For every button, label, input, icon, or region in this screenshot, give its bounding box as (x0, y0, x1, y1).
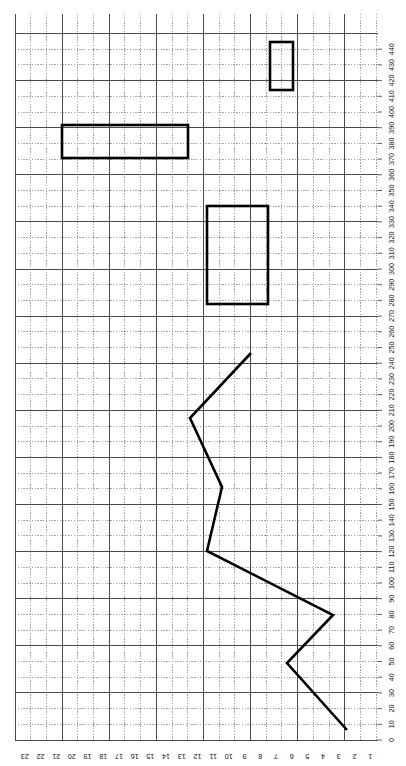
y-axis-tick-label: 110 (387, 562, 396, 573)
y-axis-tick-label: 30 (387, 689, 396, 697)
x-axis-tick-label: 3 (337, 752, 341, 761)
y-axis-tick-label: 420 (387, 75, 396, 87)
y-axis-tick-label: 170 (387, 467, 396, 479)
y-axis-tick-label: 320 (387, 232, 396, 244)
x-axis-tick-label: 2 (352, 752, 356, 761)
y-axis-tick-label: 230 (387, 373, 396, 385)
x-axis-tick-label: 5 (305, 752, 309, 761)
y-axis-tick-label: 130 (387, 530, 396, 542)
rectangle-shapes (62, 42, 293, 304)
y-axis-tick-label: 180 (387, 451, 396, 463)
x-axis-tick-label: 12 (193, 752, 201, 761)
y-axis-tick-label: 10 (387, 720, 396, 728)
y-axis-tick-label: 150 (387, 499, 396, 511)
x-axis-tick-labels: 1234567891011121314151617181920212223 (21, 752, 372, 761)
y-axis-tick-label: 430 (387, 59, 396, 71)
x-axis-tick-label: 10 (225, 752, 233, 761)
y-axis-tick-label: 20 (387, 705, 396, 713)
x-axis-tick-label: 4 (321, 752, 325, 761)
y-axis-tick-label: 60 (387, 642, 396, 650)
x-axis-tick-label: 13 (178, 752, 186, 761)
y-axis-tick-label: 390 (387, 122, 396, 134)
y-axis-tick-labels: 0102030405060708090100110120130140150160… (378, 43, 396, 742)
x-axis-tick-label: 9 (243, 752, 247, 761)
y-axis-tick-label: 260 (387, 326, 396, 338)
y-axis-tick-label: 310 (387, 247, 396, 259)
y-axis-tick-label: 90 (387, 595, 396, 603)
rect-tall-middle (207, 206, 268, 304)
y-axis-tick-label: 410 (387, 90, 396, 102)
x-axis-tick-label: 23 (21, 752, 29, 761)
x-axis-tick-label: 7 (274, 752, 278, 761)
series-line-zigzag-polyline (190, 353, 347, 730)
x-axis-tick-label: 1 (368, 752, 372, 761)
y-axis-tick-label: 140 (387, 514, 396, 526)
y-axis-tick-label: 240 (387, 357, 396, 369)
plot-canvas: 1234567891011121314151617181920212223 01… (0, 0, 406, 766)
x-axis-tick-label: 11 (209, 752, 216, 761)
grid-major-lines (15, 14, 378, 740)
x-axis-tick-label: 14 (162, 752, 170, 761)
x-axis-tick-label: 17 (115, 752, 123, 761)
y-axis-tick-label: 0 (387, 738, 396, 742)
y-axis-tick-label: 370 (387, 153, 396, 165)
y-axis-tick-label: 100 (387, 577, 396, 589)
y-axis-tick-label: 440 (387, 43, 396, 55)
x-axis-tick-label: 20 (68, 752, 76, 761)
y-axis-tick-label: 190 (387, 436, 396, 448)
x-axis-tick-label: 22 (36, 752, 44, 761)
y-axis-tick-label: 80 (387, 610, 396, 618)
grid-minor-lines (15, 14, 378, 740)
y-axis-tick-label: 50 (387, 658, 396, 666)
y-axis-tick-label: 400 (387, 106, 396, 118)
x-axis-tick-label: 18 (99, 752, 107, 761)
y-axis-tick-label: 200 (387, 420, 396, 432)
y-axis-tick-label: 160 (387, 483, 396, 495)
y-axis-tick-label: 280 (387, 294, 396, 306)
y-axis-tick-label: 340 (387, 200, 396, 212)
y-axis-tick-label: 300 (387, 263, 396, 275)
x-axis-tick-label: 19 (84, 752, 92, 761)
y-axis-tick-label: 250 (387, 342, 396, 354)
y-axis-tick-label: 70 (387, 626, 396, 634)
x-axis-tick-label: 16 (131, 752, 139, 761)
graph-paper-page: 1234567891011121314151617181920212223 01… (0, 0, 406, 766)
y-axis-tick-label: 380 (387, 137, 396, 149)
y-axis-tick-label: 290 (387, 279, 396, 291)
y-axis-tick-label: 330 (387, 216, 396, 228)
y-axis-tick-label: 120 (387, 546, 396, 558)
x-axis-tick-label: 6 (290, 752, 294, 761)
x-axis-tick-label: 21 (52, 752, 60, 761)
x-axis-tick-label: 15 (146, 752, 154, 761)
y-axis-tick-label: 210 (387, 404, 396, 416)
y-axis-tick-label: 40 (387, 673, 396, 681)
x-axis-tick-label: 8 (258, 752, 262, 761)
data-polyline (190, 353, 347, 730)
y-axis-tick-label: 350 (387, 185, 396, 197)
y-axis-tick-label: 270 (387, 310, 396, 322)
y-axis-tick-label: 360 (387, 169, 396, 181)
y-axis-tick-label: 220 (387, 389, 396, 401)
